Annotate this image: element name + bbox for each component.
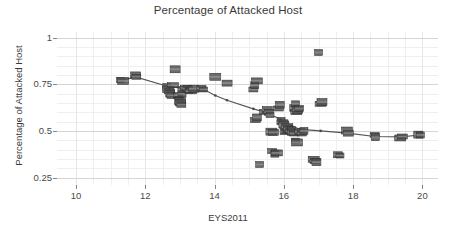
x-tick-mark [215,185,216,189]
data-point-marker [295,106,304,112]
data-point-band [266,114,274,115]
data-point-marker [397,134,407,139]
trend-line-vertex [319,130,322,133]
data-point-band [292,141,303,143]
data-point-band [249,89,258,90]
data-point-marker [292,139,303,146]
data-point-marker [168,83,179,88]
x-tick-mark [353,185,354,189]
data-point-band [315,52,323,54]
data-point-band [275,104,284,106]
data-point-band [118,80,129,82]
chart-title: Percentage of Attacked Host [0,4,456,16]
data-point-band [268,132,278,134]
x-tick-label: 10 [61,190,91,201]
data-point-band [317,101,327,103]
data-point-marker [312,159,321,166]
trend-line-vertex [252,108,255,111]
data-point-marker [200,87,208,92]
data-point-marker [317,98,327,105]
data-point-band [170,68,180,70]
data-points [116,50,424,168]
x-tick-label: 16 [269,190,299,201]
data-point-band [416,134,424,136]
data-point-band [210,76,221,78]
data-point-band [251,80,262,82]
data-point-band [132,76,141,77]
x-axis-label: EYS2011 [0,212,456,223]
data-point-band [252,116,261,118]
data-point-marker [300,127,308,134]
x-tick-mark [76,185,77,189]
x-tick-mark [422,185,423,189]
data-point-marker [271,150,282,156]
data-point-band [292,103,300,105]
data-point-marker [222,80,232,86]
data-point-band [271,152,282,154]
data-layer [57,32,438,185]
data-point-marker [170,66,180,73]
y-tick-label: 1 [0,32,60,43]
data-point-marker [132,74,141,79]
data-point-band [371,136,379,138]
y-tick-label: 0.75 [0,78,60,89]
data-point-marker [416,132,424,138]
data-point-band [295,108,304,110]
data-point-marker [177,102,186,107]
x-tick-label: 14 [200,190,230,201]
x-tick-label: 18 [338,190,368,201]
data-point-marker [251,78,262,84]
data-point-marker [371,134,379,141]
data-point-band [336,155,344,156]
plot-area [57,32,438,185]
y-tick-label: 0.5 [0,125,60,136]
data-point-marker [256,161,264,167]
trend-line-vertex [214,94,217,97]
data-point-band [251,84,259,86]
x-tick-label: 20 [407,190,437,201]
data-point-marker [118,77,129,84]
data-point-band [177,104,186,105]
data-point-marker [268,129,278,135]
data-point-marker [252,114,261,121]
data-point-band [300,130,308,132]
data-point-marker [275,101,284,108]
data-point-band [222,82,232,84]
data-point-band [343,132,353,134]
data-point-marker [210,73,221,80]
data-point-marker [336,153,344,158]
data-point-marker [343,130,353,136]
x-tick-mark [284,185,285,189]
data-point-marker [266,113,274,118]
data-point-band [312,161,321,163]
data-point-band [200,89,208,90]
x-tick-mark [145,185,146,189]
data-point-band [168,84,179,85]
data-point-band [256,164,264,166]
trend-line-vertex [226,99,229,102]
x-tick-label: 12 [130,190,160,201]
chart-figure: Percentage of Attacked Host Percentage o… [0,0,456,234]
y-axis-label: Percentage of Attacked Host [13,21,24,191]
data-point-marker [315,50,323,56]
y-tick-label: 0.25 [0,172,60,183]
data-point-band [397,136,407,137]
